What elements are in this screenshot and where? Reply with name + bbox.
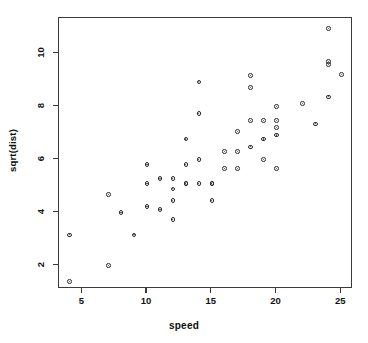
data-point [184, 137, 189, 142]
data-point [106, 263, 111, 268]
data-point [197, 157, 202, 162]
data-point [248, 118, 253, 123]
x-axis-tick-label: 20 [261, 295, 291, 306]
data-point [132, 233, 137, 238]
data-point [326, 95, 331, 100]
data-point [274, 104, 279, 109]
y-axis-tick-label: 6 [35, 149, 46, 169]
data-point [222, 149, 227, 154]
y-axis-tick [53, 52, 58, 53]
y-axis-tick [53, 264, 58, 265]
data-point [261, 118, 266, 123]
data-point [235, 149, 240, 154]
data-point [67, 279, 72, 284]
data-point [210, 181, 215, 186]
x-axis-tick [145, 288, 146, 293]
x-axis-tick-label: 15 [196, 295, 226, 306]
data-point [197, 80, 202, 85]
data-points-layer [59, 18, 351, 287]
y-axis-tick [53, 211, 58, 212]
data-point [326, 59, 331, 64]
x-axis-tick-label: 5 [66, 295, 96, 306]
x-axis-tick [81, 288, 82, 293]
y-axis-title: sqrt(dist) [7, 101, 18, 201]
data-point [248, 73, 253, 78]
x-axis-tick-label: 25 [325, 295, 355, 306]
y-axis-tick [53, 105, 58, 106]
data-point [197, 181, 202, 186]
data-point [171, 217, 176, 222]
y-axis-tick-label: 10 [35, 43, 46, 63]
data-point [145, 204, 150, 209]
x-axis-tick [340, 288, 341, 293]
data-point [184, 162, 189, 167]
data-point [106, 192, 111, 197]
data-point [274, 125, 279, 130]
data-point [313, 122, 318, 127]
data-point [248, 85, 253, 90]
data-point [119, 210, 124, 215]
x-axis-tick-label: 10 [131, 295, 161, 306]
data-point [339, 72, 344, 77]
y-axis-tick-label: 8 [35, 96, 46, 116]
data-point [261, 137, 266, 142]
data-point [210, 198, 215, 203]
data-point [300, 101, 305, 106]
data-point [274, 118, 279, 123]
data-point [145, 181, 150, 186]
x-axis-tick [210, 288, 211, 293]
data-point [274, 133, 279, 138]
data-point [145, 162, 150, 167]
data-point [248, 145, 253, 150]
data-point [158, 207, 163, 212]
data-point [326, 26, 331, 31]
data-point [235, 166, 240, 171]
x-axis-title: speed [0, 320, 368, 331]
data-point [184, 181, 189, 186]
data-point [222, 166, 227, 171]
data-point [274, 166, 279, 171]
data-point [171, 187, 176, 192]
y-axis-tick-label: 4 [35, 202, 46, 222]
data-point [171, 176, 176, 181]
plot-frame [58, 17, 352, 288]
x-axis-tick [275, 288, 276, 293]
y-axis-tick-label: 2 [35, 255, 46, 275]
data-point [67, 233, 72, 238]
scatter-plot-figure: 510152025 246810 speed sqrt(dist) [0, 0, 368, 343]
y-axis-tick [53, 158, 58, 159]
data-point [235, 129, 240, 134]
data-point [261, 157, 266, 162]
data-point [171, 198, 176, 203]
data-point [158, 176, 163, 181]
data-point [197, 111, 202, 116]
